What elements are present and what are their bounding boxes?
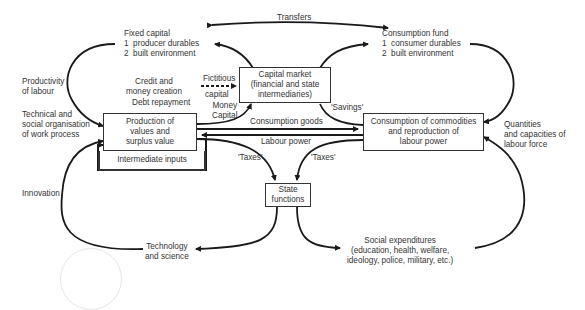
fictitious-label: Fictitious xyxy=(203,74,235,84)
technical-label: Technical and social organisation of wor… xyxy=(22,110,90,140)
consumption-fund-label: Consumption fund 1 consumer durables 2 b… xyxy=(382,29,461,59)
capital-to-consumption-fund-arrow xyxy=(320,44,368,68)
state-to-social-arrow xyxy=(297,207,340,248)
consumption-fund-loop-arrow xyxy=(470,44,514,122)
fictitious-capital-label: capital xyxy=(205,90,229,100)
social-expenditures-loop-arrow xyxy=(475,137,524,248)
innovation-label: Innovation xyxy=(22,189,60,199)
technology-label: Technology and science xyxy=(145,242,189,262)
taxes-left-label: 'Taxes' xyxy=(238,153,263,163)
credit-label: Credit and money creation xyxy=(126,77,182,97)
production-box: Production of values and surplus value xyxy=(103,113,197,151)
labour-power-label: Labour power xyxy=(261,137,311,147)
capital-to-fixed-arrow xyxy=(215,44,253,68)
consumption-box: Consumption of commodities and reproduct… xyxy=(363,113,484,151)
intermediate-inputs-label: Intermediate inputs xyxy=(117,155,187,165)
taxes-right-label: 'Taxes' xyxy=(311,153,336,163)
fixed-capital-label: Fixed capital 1 producer durables 2 buil… xyxy=(124,29,199,59)
consumption-box-label: Consumption of commodities and reproduct… xyxy=(371,117,477,147)
social-expenditures-label: Social expenditures (education, health, … xyxy=(347,236,453,266)
quantities-label: Quantities and capacities of labour forc… xyxy=(504,120,565,150)
transfers-label: Transfers xyxy=(277,13,311,23)
state-functions-label: State functions xyxy=(272,185,305,205)
debt-repayment-label: Debt repayment xyxy=(132,98,190,108)
production-box-label: Production of values and surplus value xyxy=(126,117,174,147)
money-capital-label: Money Capital xyxy=(212,101,238,121)
watermark-circle xyxy=(60,248,122,310)
capital-market-box: Capital market (financial and state inte… xyxy=(239,67,331,103)
consumption-goods-label: Consumption goods xyxy=(250,117,323,127)
productivity-label: Productivity of labour xyxy=(22,77,64,97)
state-functions-box: State functions xyxy=(265,183,311,207)
savings-label: 'Savings' xyxy=(331,103,363,113)
transfers-arrow xyxy=(212,22,388,28)
state-to-technology-arrow xyxy=(196,207,277,249)
intermediate-inputs-box: Intermediate inputs xyxy=(98,151,206,171)
capital-market-label: Capital market (financial and state inte… xyxy=(251,70,320,100)
